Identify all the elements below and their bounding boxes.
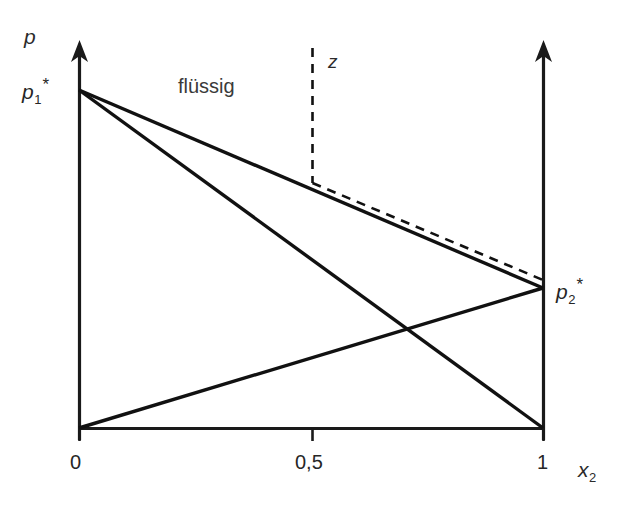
p1-subscript: 1 xyxy=(34,92,42,107)
x-tick-label-05: 0,5 xyxy=(295,452,323,472)
isopleth-z-label: z xyxy=(328,52,338,71)
p2-star-label: p2* xyxy=(556,276,583,306)
p1-base: p xyxy=(22,80,34,103)
p1-star-glyph: * xyxy=(41,75,49,94)
x-axis xyxy=(79,428,544,441)
x-tick-label-0: 0 xyxy=(70,452,81,472)
x-axis-label: x2 xyxy=(578,459,596,484)
x-axis-subscript: 2 xyxy=(589,470,597,485)
x-tick-label-1: 1 xyxy=(537,452,548,472)
y-axis-label: p xyxy=(24,26,36,47)
x-axis-base: x xyxy=(578,458,589,481)
y-axis-left xyxy=(71,40,88,440)
region-label-liquid: flüssig xyxy=(178,76,235,96)
isopleth-z-dashed xyxy=(313,48,544,280)
p2-star-glyph: * xyxy=(575,275,583,294)
p2-subscript: 2 xyxy=(568,292,576,307)
y-axis-right xyxy=(535,40,552,440)
vapor-pressure-diagram: p p1* p2* flüssig z 0 0,5 1 x2 xyxy=(0,0,626,520)
line-partial-p2 xyxy=(79,288,543,428)
plot-canvas xyxy=(0,0,626,520)
p1-star-label: p1* xyxy=(22,76,49,106)
p2-base: p xyxy=(556,280,568,303)
